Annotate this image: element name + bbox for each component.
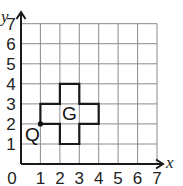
y-tick: 2: [6, 115, 15, 134]
coordinate-grid: G Q y x 1 2 3 4 5 6 7 0 1 2 3 4 5 6 7: [0, 0, 183, 186]
y-tick: 3: [6, 95, 15, 114]
x-tick-labels: 0 1 2 3 4 5 6 7: [7, 169, 161, 186]
y-tick-labels: 1 2 3 4 5 6 7: [6, 15, 15, 154]
x-tick: 0: [7, 169, 16, 186]
y-tick: 7: [6, 15, 15, 34]
grid-lines: [21, 24, 157, 164]
shape-label: G: [62, 103, 77, 124]
x-axis-label: x: [165, 153, 174, 172]
y-tick: 1: [6, 135, 15, 154]
x-tick: 5: [113, 169, 122, 186]
x-tick: 3: [75, 169, 84, 186]
x-tick: 6: [133, 169, 142, 186]
y-tick: 6: [6, 35, 15, 54]
x-tick: 4: [94, 169, 103, 186]
point-label: Q: [25, 124, 40, 145]
axes: [17, 12, 164, 169]
x-tick: 7: [152, 169, 161, 186]
x-tick: 1: [36, 169, 45, 186]
y-tick: 4: [6, 75, 15, 94]
y-tick: 5: [6, 55, 15, 74]
x-tick: 2: [55, 169, 64, 186]
